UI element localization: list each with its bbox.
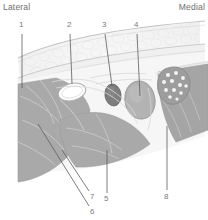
callout-label-1: 1: [19, 20, 23, 29]
orientation-label-lateral: Lateral: [3, 2, 30, 12]
orientation-label-medial: Medial: [179, 2, 205, 12]
anatomy-figure: Lateral Medial 1 2 3 4 5 6 7 8: [0, 0, 208, 220]
callout-label-2: 2: [67, 20, 71, 29]
anatomy-illustration: [0, 0, 208, 220]
callout-label-8: 8: [164, 192, 168, 201]
callout-label-3: 3: [102, 20, 106, 29]
callout-label-7: 7: [90, 192, 94, 201]
callout-label-5: 5: [104, 194, 108, 203]
callout-label-4: 4: [134, 20, 138, 29]
callout-label-6: 6: [90, 207, 94, 216]
